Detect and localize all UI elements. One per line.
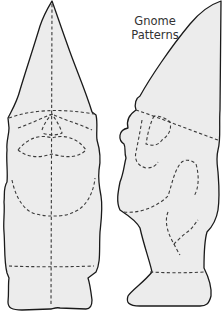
side-view-gnome xyxy=(118,1,221,306)
front-view-outline xyxy=(4,1,102,310)
pattern-canvas xyxy=(0,0,223,314)
side-view-outline xyxy=(118,1,221,306)
front-view-gnome xyxy=(4,1,102,310)
